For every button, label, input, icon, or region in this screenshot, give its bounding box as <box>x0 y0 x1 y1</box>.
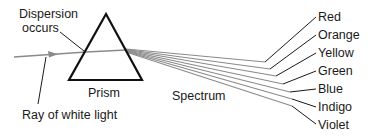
ray-arrowhead-icon <box>48 51 58 58</box>
color-label-violet: Violet <box>318 118 349 132</box>
color-leaders <box>265 17 316 124</box>
spectrum-label: Spectrum <box>172 89 226 103</box>
dispersion-leader <box>60 32 84 51</box>
dispersion-label-line2: occurs <box>22 21 59 35</box>
color-label-orange: Orange <box>318 28 360 42</box>
refracted-ray <box>86 50 126 52</box>
color-label-blue: Blue <box>318 82 343 96</box>
color-label-yellow: Yellow <box>318 46 354 60</box>
color-label-indigo: Indigo <box>318 100 352 114</box>
ray-leader <box>38 57 46 104</box>
dispersion-label-line1: Dispersion <box>19 7 78 21</box>
color-label-red: Red <box>318 10 341 24</box>
prism-shape <box>69 14 142 80</box>
prism-label: Prism <box>88 86 120 100</box>
ray-label: Ray of white light <box>22 108 117 122</box>
color-label-green: Green <box>318 64 353 78</box>
